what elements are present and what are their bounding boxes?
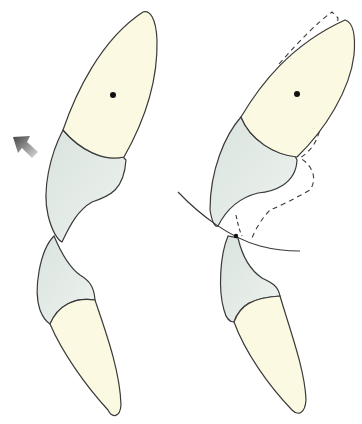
left-center-dot — [110, 92, 116, 98]
right-panel — [178, 12, 355, 413]
dashed-inner-line — [236, 215, 242, 236]
diagram-canvas — [0, 0, 362, 424]
left-panel — [13, 12, 157, 416]
left-upper-crown — [63, 12, 157, 158]
right-center-dot — [294, 91, 300, 97]
contact-point — [234, 234, 238, 238]
direction-arrow-icon — [13, 136, 38, 158]
left-lower-crown — [50, 299, 121, 415]
right-upper-crown — [241, 20, 355, 157]
right-lower-crown — [234, 296, 306, 413]
